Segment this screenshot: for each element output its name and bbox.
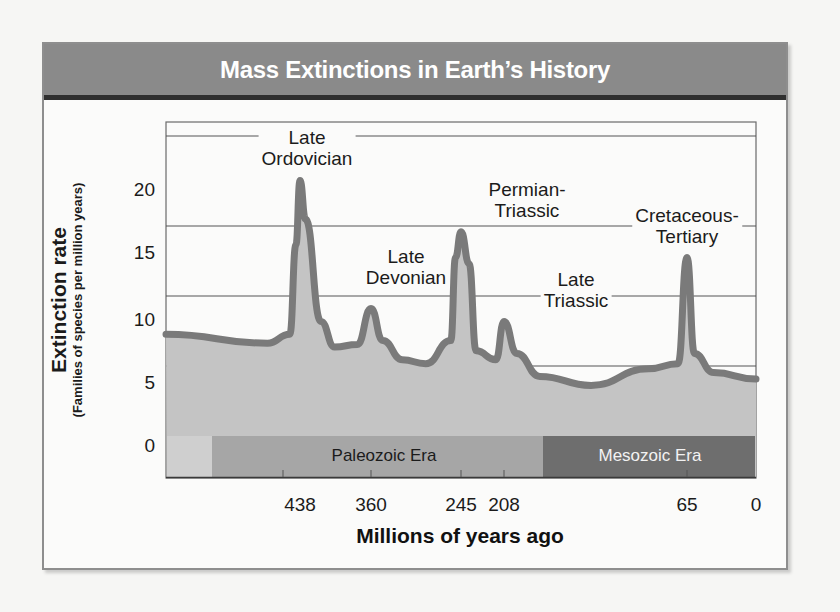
x-tick-0: 0 (751, 494, 762, 516)
x-tick-208: 208 (488, 494, 520, 516)
y-tick-15: 15 (115, 242, 155, 264)
chart-plot (0, 0, 840, 612)
annotation-cretaceous-tertiary: Cretaceous- Tertiary (632, 205, 742, 247)
early-band (167, 436, 212, 477)
x-tick-438: 438 (284, 494, 316, 516)
x-tick-245: 245 (445, 494, 477, 516)
x-axis-title: Millions of years ago (356, 524, 564, 548)
annotation-late-ordovician: Late Ordovician (259, 127, 356, 169)
y-axis-subtitle: (Families of species per million years) (70, 183, 85, 418)
annotation-late-devonian: Late Devonian (363, 246, 449, 288)
y-axis-title: Extinction rate (Families of species per… (48, 183, 85, 418)
x-tick-360: 360 (355, 494, 387, 516)
annotation-permian-triassic: Permian- Triassic (485, 179, 568, 221)
y-tick-10: 10 (115, 309, 155, 331)
y-tick-0: 0 (115, 435, 155, 457)
y-tick-5: 5 (115, 372, 155, 394)
era-label-mesozoic: Mesozoic Era (599, 446, 702, 466)
x-tick-65: 65 (676, 494, 697, 516)
era-label-paleozoic: Paleozoic Era (332, 446, 437, 466)
y-tick-20: 20 (115, 179, 155, 201)
annotation-late-triassic: Late Triassic (541, 269, 612, 311)
